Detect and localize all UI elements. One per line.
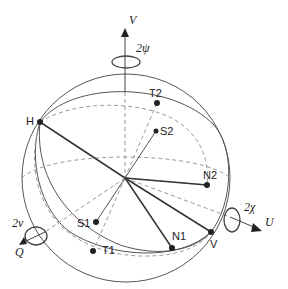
- radius-n1: [125, 178, 172, 248]
- point-s2: [154, 129, 159, 134]
- label-t2: T2: [149, 87, 162, 99]
- point-v: [208, 229, 214, 235]
- label-t1: T1: [102, 244, 115, 256]
- poincare-sphere-diagram: H T2 S2 N2 V N1 S1 T1 V 2ψ Q 2ν U 2χ: [0, 0, 288, 289]
- chord-center-t2: [125, 103, 157, 178]
- point-n2: [204, 182, 210, 188]
- q-axis-label: Q: [15, 245, 24, 259]
- u-axis-arrowhead-icon: [251, 223, 262, 232]
- point-s1: [93, 219, 99, 225]
- label-s1: S1: [77, 217, 90, 229]
- point-h: [37, 119, 43, 125]
- v-rotation-ellipse: [112, 56, 140, 68]
- label-n1: N1: [172, 230, 186, 242]
- point-n1: [169, 245, 175, 251]
- label-v: V: [210, 238, 218, 250]
- point-t2: [154, 100, 160, 106]
- v-axis-label: V: [129, 13, 138, 27]
- v-rotation-label: 2ψ: [136, 41, 150, 55]
- point-t1: [90, 248, 96, 254]
- u-rotation-label: 2χ: [244, 200, 256, 214]
- v-axis-arrowhead-icon: [121, 28, 129, 37]
- great-circle-back-1: [40, 105, 208, 185]
- label-n2: N2: [203, 169, 217, 181]
- u-axis-label: U: [265, 215, 275, 229]
- q-rotation-label: 2ν: [12, 216, 24, 230]
- u-axis-outer: [230, 217, 256, 228]
- label-h: H: [26, 115, 34, 127]
- radius-n2: [125, 178, 207, 185]
- radius-s2: [125, 131, 156, 178]
- radius-h: [40, 122, 125, 178]
- label-s2: S2: [160, 125, 173, 137]
- radius-s1: [96, 178, 125, 222]
